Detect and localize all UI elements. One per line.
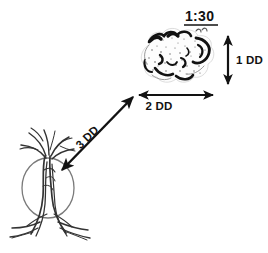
width-dimension-label: 2 DD — [145, 100, 172, 112]
fundus-diagram: 1:30 1 DD 2 DD 3 DD — [0, 0, 268, 253]
diagram-canvas: 1:30 1 DD 2 DD 3 DD — [0, 0, 268, 253]
distance-dimension-label: 3 DD — [73, 123, 101, 151]
height-dimension-label: 1 DD — [236, 54, 263, 66]
retinal-lesion — [141, 28, 214, 82]
clock-position-label: 1:30 — [185, 8, 214, 24]
